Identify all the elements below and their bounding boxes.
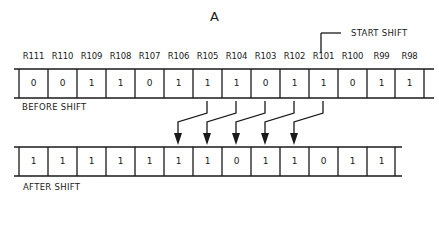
bit-cell: 0 <box>19 78 48 88</box>
bit-cell: 1 <box>77 156 106 166</box>
bit-cell: 1 <box>77 78 106 88</box>
bit-cell: 1 <box>193 78 222 88</box>
bit-cell: 1 <box>164 78 193 88</box>
bit-cell: 0 <box>48 78 77 88</box>
bit-cell: 1 <box>106 78 135 88</box>
bit-cell: 1 <box>106 156 135 166</box>
bit-cell: 1 <box>251 156 280 166</box>
before-shift-caption: BEFORE SHIFT <box>22 102 87 112</box>
bit-cell: 1 <box>19 156 48 166</box>
bit-cell: 1 <box>193 156 222 166</box>
bit-cell: 0 <box>222 156 251 166</box>
bit-cell: 1 <box>309 78 338 88</box>
start-shift-label: START SHIFT <box>351 28 407 38</box>
after-shift-caption: AFTER SHIFT <box>23 182 80 192</box>
bit-cell: 1 <box>395 78 424 88</box>
bit-cell: 0 <box>251 78 280 88</box>
bit-cell: 0 <box>309 156 338 166</box>
bit-cell: 1 <box>367 156 396 166</box>
bit-cell: 1 <box>164 156 193 166</box>
bit-cell: 1 <box>367 78 396 88</box>
bit-cell: 1 <box>222 78 251 88</box>
bit-cell: 1 <box>280 156 309 166</box>
bit-cell: 1 <box>48 156 77 166</box>
bit-cell: 1 <box>338 156 367 166</box>
bit-cell: 1 <box>135 156 164 166</box>
bit-cell: 0 <box>135 78 164 88</box>
bit-cell: 0 <box>338 78 367 88</box>
bit-cell: 1 <box>280 78 309 88</box>
